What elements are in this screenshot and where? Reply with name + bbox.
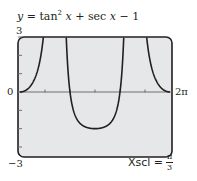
xscl-annotation: Xscl = π 3 (128, 153, 173, 172)
y-max-label: 3 (16, 26, 22, 36)
xscl-numerator: π (167, 153, 172, 161)
x-max-label: 2π (175, 87, 188, 97)
xscl-label: Xscl = (128, 156, 163, 169)
xscl-fraction: π 3 (166, 153, 173, 172)
xscl-denominator: 3 (167, 164, 172, 172)
y-min-label: −3 (8, 159, 23, 169)
x-min-label: 0 (7, 87, 13, 97)
